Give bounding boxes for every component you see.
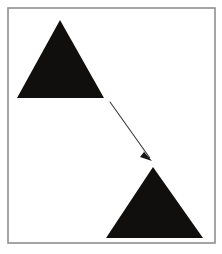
figure-container: Two black triangles connected by an arro… — [0, 0, 222, 254]
figure-background — [0, 0, 222, 254]
diagram-canvas — [0, 0, 222, 254]
